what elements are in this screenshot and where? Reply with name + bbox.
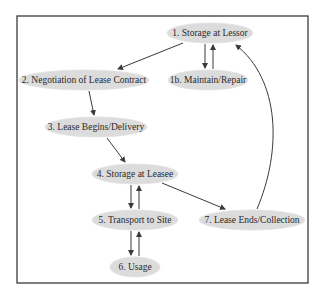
node-label: 3. Lease Begins/Delivery	[48, 122, 145, 132]
node-label: 1b. Maintain/Repair	[170, 75, 247, 85]
node-n5: 5. Transport to Site	[92, 210, 178, 230]
node-n2: 2. Negotiation of Lease Contract	[19, 70, 149, 90]
node-n6: 6. Usage	[110, 257, 160, 277]
lease-lifecycle-diagram: 1. Storage at Lessor2. Negotiation of Le…	[0, 0, 323, 297]
node-n4: 4. Storage at Leasee	[92, 164, 178, 184]
node-n1b: 1b. Maintain/Repair	[168, 70, 248, 90]
node-label: 7. Lease Ends/Collection	[204, 215, 299, 225]
node-n7: 7. Lease Ends/Collection	[199, 210, 305, 230]
node-label: 5. Transport to Site	[99, 215, 172, 225]
diagram-frame	[17, 16, 308, 283]
node-label: 2. Negotiation of Lease Contract	[22, 75, 147, 85]
node-n1: 1. Storage at Lessor	[167, 23, 253, 43]
node-n3: 3. Lease Begins/Delivery	[45, 117, 147, 137]
node-label: 6. Usage	[118, 262, 151, 272]
node-label: 1. Storage at Lessor	[172, 28, 248, 38]
node-label: 4. Storage at Leasee	[97, 169, 174, 179]
